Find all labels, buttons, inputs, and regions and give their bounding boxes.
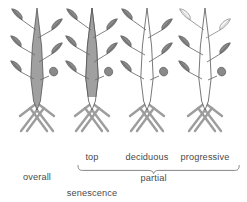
plant-deciduous-stem <box>141 8 153 110</box>
plant-progressive-stem <box>199 8 211 110</box>
label-senescence: senescence <box>67 188 118 198</box>
label-progressive: progressive <box>180 152 229 162</box>
label-deciduous: deciduous <box>125 152 168 162</box>
plant-overall-stem <box>31 8 43 110</box>
label-top: top <box>85 152 98 162</box>
plant-top <box>66 8 118 131</box>
plant-deciduous <box>121 8 173 131</box>
plant-top-stem-shaded <box>86 8 98 110</box>
plant-progressive <box>179 8 231 131</box>
figure-canvas: top deciduous progressive overall partia… <box>0 0 247 202</box>
label-partial: partial <box>141 173 167 183</box>
label-overall: overall <box>23 172 51 182</box>
senescence-figure: top deciduous progressive overall partia… <box>0 0 247 202</box>
plant-overall <box>11 8 63 131</box>
